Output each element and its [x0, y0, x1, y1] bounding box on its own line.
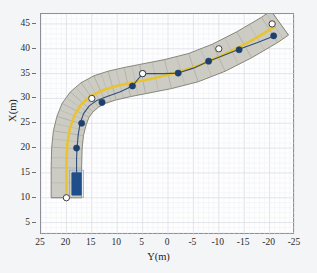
y-tick-40: 40 [21, 43, 31, 53]
y-tick-15: 15 [21, 167, 31, 177]
plot-area [40, 13, 294, 234]
y-tickmark [32, 222, 36, 223]
x-tick-20: 20 [61, 237, 71, 247]
y-tickmark [32, 172, 36, 173]
y-tick-45: 45 [21, 18, 31, 28]
y-axis-title: X(m) [7, 81, 18, 141]
x-axis-tick-labels: 2520151050-5-10-15-20-25 [40, 237, 294, 251]
x-tick-0: 0 [165, 237, 170, 247]
x-tick--10: -10 [211, 237, 224, 247]
y-tickmark [32, 197, 36, 198]
y-tickmark [32, 147, 36, 148]
x-tick-25: 25 [35, 237, 45, 247]
y-tickmark [32, 23, 36, 24]
y-tick-30: 30 [21, 92, 31, 102]
x-tick--20: -20 [262, 237, 275, 247]
y-axis-tick-labels: 51015202530354045 [0, 13, 36, 234]
y-tick-20: 20 [21, 142, 31, 152]
figure-canvas: 51015202530354045 2520151050-5-10-15-20-… [0, 0, 317, 273]
chart-series-layer [41, 14, 295, 235]
y-tickmark [32, 97, 36, 98]
y-tickmark [32, 73, 36, 74]
x-tick-15: 15 [86, 237, 96, 247]
x-tick-5: 5 [139, 237, 144, 247]
x-tick--15: -15 [237, 237, 250, 247]
x-tick-10: 10 [111, 237, 121, 247]
y-tick-25: 25 [21, 117, 31, 127]
x-axis-title: Y(m) [0, 251, 317, 262]
y-tickmark [32, 122, 36, 123]
y-tick-5: 5 [25, 217, 30, 227]
y-tick-35: 35 [21, 68, 31, 78]
y-tickmark [32, 48, 36, 49]
x-tick--25: -25 [288, 237, 301, 247]
y-tick-10: 10 [21, 192, 31, 202]
x-tick--5: -5 [188, 237, 196, 247]
